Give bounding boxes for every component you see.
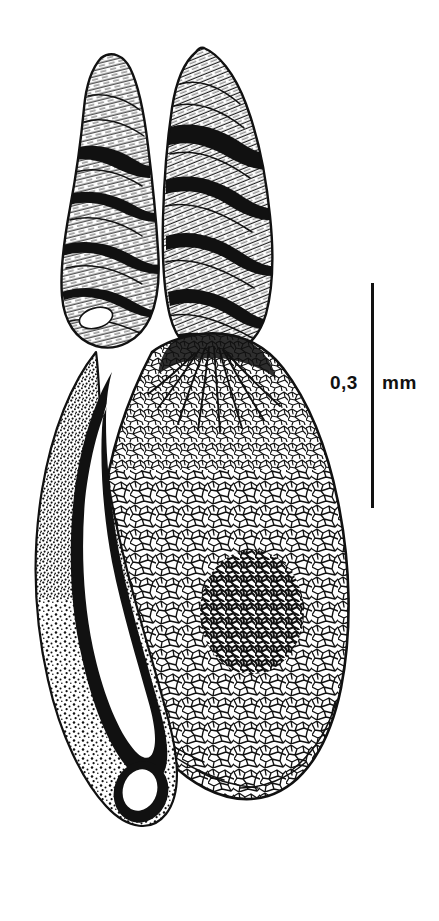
figure-canvas: 0,3 mm bbox=[0, 0, 439, 921]
dense-reticulation-patch bbox=[200, 550, 304, 674]
scale-bar-value: 0,3 bbox=[330, 373, 358, 392]
scale-bar: 0,3 mm bbox=[330, 270, 439, 520]
scale-bar-line bbox=[371, 283, 374, 508]
scale-bar-unit: mm bbox=[382, 373, 417, 392]
right-lobe bbox=[150, 35, 290, 375]
left-lobe bbox=[50, 40, 180, 370]
